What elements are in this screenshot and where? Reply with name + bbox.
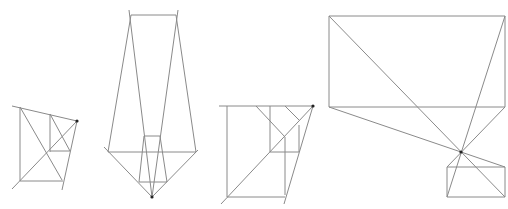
vanishing-point [311, 104, 314, 107]
vanishing-point [150, 195, 153, 198]
line-segment [62, 121, 77, 190]
line-segment [12, 121, 77, 189]
figure-1 [12, 106, 79, 190]
geometry-diagram [0, 0, 508, 209]
line-segment [12, 106, 77, 121]
line-segment [160, 136, 167, 182]
line-segment [152, 150, 198, 197]
line-segment [329, 107, 505, 167]
figure-2 [104, 10, 198, 199]
line-segment [447, 107, 505, 167]
line-segment [104, 147, 152, 197]
line-segment [221, 106, 313, 204]
line-segment [176, 15, 196, 152]
vanishing-point [75, 119, 78, 122]
line-segment [285, 106, 299, 120]
vanishing-point [459, 150, 462, 153]
figure-3 [219, 104, 315, 204]
figure-4 [329, 16, 505, 197]
line-segment [108, 15, 131, 152]
line-segment [139, 136, 144, 182]
line-segment [284, 106, 313, 204]
